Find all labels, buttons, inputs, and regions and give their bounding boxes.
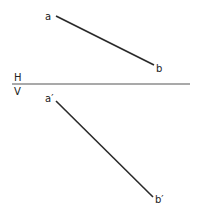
- line-ab-top-view: [56, 16, 154, 65]
- label-v: V: [14, 86, 21, 97]
- label-b-prime: b′: [155, 194, 164, 205]
- label-a: a: [45, 11, 51, 22]
- label-h: H: [14, 72, 22, 83]
- label-b: b: [156, 63, 162, 74]
- line-ab-front-view: [56, 101, 153, 197]
- projection-diagram: H V a b a′ b′: [0, 0, 200, 222]
- label-a-prime: a′: [45, 93, 54, 104]
